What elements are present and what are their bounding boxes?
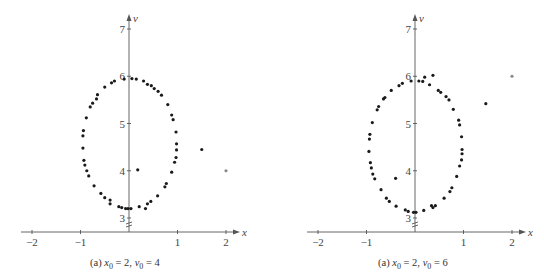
data-point bbox=[428, 83, 431, 86]
x-tick-label: −2 bbox=[312, 236, 324, 248]
data-point bbox=[458, 123, 461, 126]
data-point bbox=[96, 93, 99, 96]
x-tick-label: 2 bbox=[223, 236, 229, 248]
data-point bbox=[172, 118, 175, 121]
data-point bbox=[379, 188, 382, 191]
data-point bbox=[431, 74, 434, 77]
data-point bbox=[417, 79, 420, 82]
data-point bbox=[175, 148, 178, 151]
data-point bbox=[443, 197, 446, 200]
data-point bbox=[83, 163, 86, 166]
data-point bbox=[421, 80, 424, 83]
data-point bbox=[437, 89, 440, 92]
x-tick-label: 1 bbox=[175, 236, 181, 248]
caption-prefix: (a) bbox=[378, 257, 392, 268]
data-point bbox=[452, 108, 455, 111]
data-point bbox=[110, 81, 113, 84]
data-point bbox=[377, 105, 380, 108]
data-point bbox=[150, 84, 153, 87]
data-point bbox=[103, 86, 106, 89]
data-point bbox=[388, 200, 391, 203]
data-point bbox=[160, 94, 163, 97]
x-axis-arrow-icon bbox=[233, 230, 240, 235]
data-point bbox=[369, 161, 372, 164]
x-axis-arrow-icon bbox=[519, 230, 526, 235]
data-point bbox=[99, 192, 102, 195]
caption-right: (a) x0 = 2, v0 = 6 bbox=[378, 257, 448, 271]
data-point bbox=[368, 137, 371, 140]
data-point bbox=[92, 184, 95, 187]
x-tick-label: −2 bbox=[26, 236, 38, 248]
x-axis-label: x bbox=[241, 226, 247, 238]
data-point bbox=[394, 177, 397, 180]
data-point bbox=[390, 89, 393, 92]
data-point bbox=[448, 190, 451, 193]
data-point bbox=[457, 119, 460, 122]
data-point bbox=[103, 196, 106, 199]
data-point bbox=[136, 168, 139, 171]
data-point bbox=[91, 102, 94, 105]
data-point bbox=[95, 97, 98, 100]
data-point bbox=[175, 142, 178, 145]
data-point bbox=[129, 207, 132, 210]
data-point bbox=[174, 156, 177, 159]
y-tick-label: 7 bbox=[406, 23, 412, 35]
x-tick-label: −1 bbox=[361, 236, 373, 248]
axes: xv−2−11234567 bbox=[307, 12, 533, 248]
data-point bbox=[422, 209, 425, 212]
data-point bbox=[108, 202, 111, 205]
scatter-plot-left: xv−2−11234567 bbox=[0, 0, 272, 279]
data-point bbox=[82, 129, 85, 132]
data-point bbox=[382, 97, 385, 100]
data-point bbox=[414, 211, 417, 214]
caption-vval: = 4 bbox=[143, 257, 159, 268]
data-point bbox=[85, 116, 88, 119]
y-tick-label: 3 bbox=[120, 212, 126, 224]
caption-prefix: (a) bbox=[90, 257, 104, 268]
y-tick-label: 7 bbox=[120, 23, 126, 35]
data-point bbox=[89, 105, 92, 108]
data-points bbox=[81, 77, 227, 210]
y-axis-label: v bbox=[133, 12, 138, 24]
data-point bbox=[124, 207, 127, 210]
phase-plot-left: xv−2−11234567 (a) x0 = 2, v0 = 4 bbox=[0, 0, 272, 279]
data-point bbox=[200, 148, 203, 151]
data-point bbox=[174, 130, 177, 133]
data-point bbox=[385, 197, 388, 200]
data-point bbox=[156, 194, 159, 197]
data-point bbox=[157, 90, 160, 93]
data-point bbox=[224, 169, 227, 172]
data-point bbox=[373, 177, 376, 180]
x-axis-label: x bbox=[527, 226, 533, 238]
y-tick-label: 4 bbox=[406, 165, 412, 177]
data-points bbox=[367, 74, 513, 214]
y-axis-arrow-icon bbox=[127, 14, 132, 21]
x-tick-label: 2 bbox=[509, 236, 515, 248]
data-point bbox=[455, 175, 458, 178]
data-point bbox=[138, 205, 141, 208]
data-point bbox=[149, 200, 152, 203]
data-point bbox=[81, 146, 84, 149]
data-point bbox=[146, 83, 149, 86]
data-point bbox=[371, 121, 374, 124]
data-point bbox=[397, 84, 400, 87]
data-point bbox=[376, 108, 379, 111]
data-point bbox=[173, 161, 176, 164]
data-point bbox=[444, 95, 447, 98]
data-point bbox=[371, 172, 374, 175]
data-point bbox=[401, 82, 404, 85]
data-point bbox=[81, 134, 84, 137]
y-axis-label: v bbox=[419, 12, 424, 24]
y-axis-arrow-icon bbox=[413, 14, 418, 21]
y-tick-label: 4 bbox=[120, 165, 126, 177]
y-tick-label: 5 bbox=[120, 118, 126, 130]
data-point bbox=[82, 159, 85, 162]
data-point bbox=[367, 150, 370, 153]
data-point bbox=[423, 76, 426, 79]
data-point bbox=[163, 185, 166, 188]
caption-vval: = 6 bbox=[431, 257, 447, 268]
data-point bbox=[108, 198, 111, 201]
y-tick-label: 3 bbox=[406, 212, 412, 224]
data-point bbox=[394, 205, 397, 208]
data-point bbox=[170, 113, 173, 116]
